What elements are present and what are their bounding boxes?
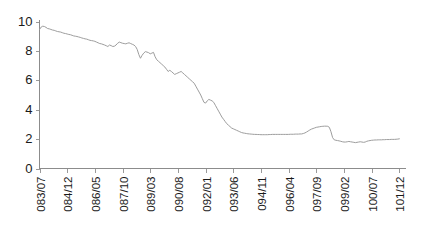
y-tick-label: 6 <box>25 72 32 87</box>
y-tick-label: 0 <box>25 161 32 176</box>
x-tick-label: 087/10 <box>118 177 130 212</box>
x-tick-label: 099/02 <box>339 177 351 212</box>
x-tick-label: 100/07 <box>367 177 379 212</box>
x-axis-ticks <box>41 169 400 173</box>
y-tick-label: 2 <box>25 131 32 146</box>
x-tick-label: 089/03 <box>145 177 157 212</box>
x-tick-label: 093/06 <box>228 177 240 212</box>
y-tick-label: 4 <box>25 102 32 117</box>
x-tick-label: 084/12 <box>62 177 74 212</box>
x-tick-label: 097/09 <box>311 177 323 212</box>
y-tick-label: 10 <box>18 14 32 29</box>
x-tick-label: 090/08 <box>173 177 185 212</box>
x-tick-label: 101/12 <box>394 177 406 212</box>
y-tick-labels: 0246810 <box>18 14 32 176</box>
y-axis-ticks <box>36 23 40 170</box>
data-series-line <box>40 26 400 142</box>
x-tick-label: 086/05 <box>90 177 102 212</box>
x-tick-label: 092/01 <box>201 177 213 212</box>
chart-container: 0246810 083/07084/12086/05087/10089/0309… <box>0 0 427 231</box>
x-tick-label: 096/04 <box>284 176 296 212</box>
line-chart: 0246810 083/07084/12086/05087/10089/0309… <box>0 0 427 231</box>
y-tick-label: 8 <box>25 43 32 58</box>
x-tick-label: 094/11 <box>256 177 268 211</box>
x-tick-label: 083/07 <box>35 177 47 212</box>
x-tick-labels: 083/07084/12086/05087/10089/03090/08092/… <box>35 176 406 212</box>
